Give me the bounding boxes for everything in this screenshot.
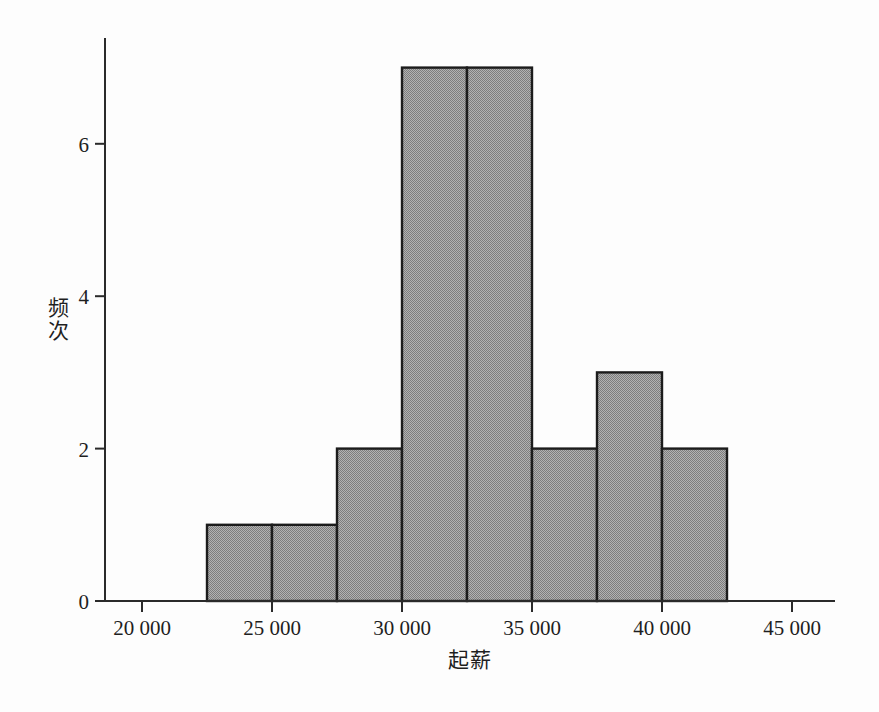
x-tick-label: 20 000: [113, 616, 171, 640]
y-tick-label: 0: [79, 590, 90, 614]
histogram-bar: [467, 68, 532, 601]
x-axis-label: 起薪: [448, 648, 492, 673]
histogram-bar: [597, 372, 662, 601]
histogram-bar: [207, 525, 272, 601]
y-tick-label: 6: [79, 133, 90, 157]
x-tick-label: 35 000: [503, 616, 561, 640]
y-ticks-group: 0246: [79, 133, 106, 614]
x-ticks-group: 20 00025 00030 00035 00040 00045 000: [113, 601, 821, 640]
bars-group: [207, 68, 727, 601]
y-axis-label: 频次: [44, 297, 69, 343]
x-tick-label: 30 000: [373, 616, 431, 640]
histogram-plot: 20 00025 00030 00035 00040 00045 000 024…: [0, 0, 879, 712]
histogram-bar: [402, 68, 467, 601]
x-tick-label: 25 000: [243, 616, 301, 640]
x-tick-label: 40 000: [633, 616, 691, 640]
histogram-bar: [662, 449, 727, 601]
chart-page: 20 00025 00030 00035 00040 00045 000 024…: [0, 0, 879, 712]
histogram-bar: [532, 449, 597, 601]
histogram-bar: [337, 449, 402, 601]
y-tick-label: 4: [79, 285, 90, 309]
y-tick-label: 2: [79, 438, 90, 462]
histogram-bar: [272, 525, 337, 601]
x-tick-label: 45 000: [763, 616, 821, 640]
